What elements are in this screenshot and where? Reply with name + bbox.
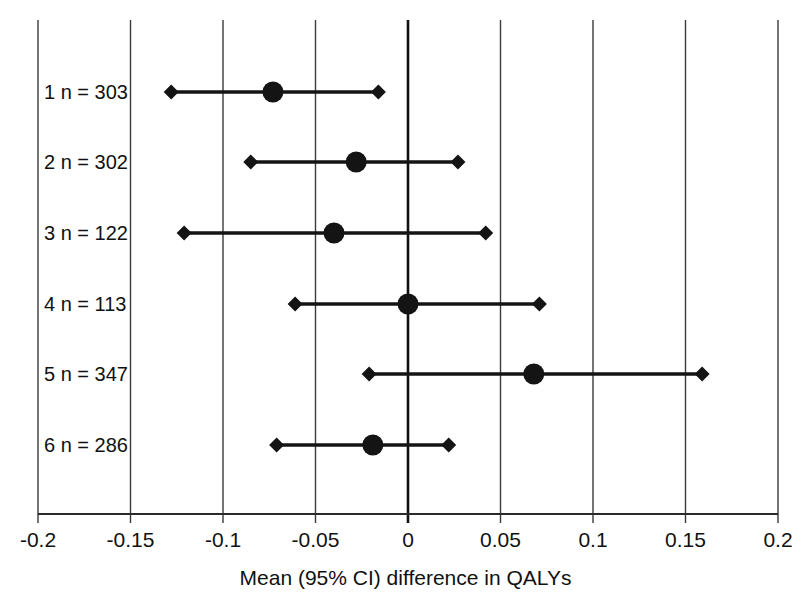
data-row [288,294,547,315]
ci-high-diamond [371,85,386,100]
row-label-study-3: 3 n = 122 [44,222,128,245]
x-tick-label: -0.15 [107,528,155,552]
data-rows-group [164,82,710,456]
x-tick-label: 0.05 [480,528,521,552]
data-row [362,364,710,385]
data-row [243,152,465,173]
row-label-study-5: 5 n = 347 [44,363,128,386]
row-label-study-4: 4 n = 113 [44,293,126,316]
mean-point-marker [523,364,544,385]
x-tick-label: 0 [402,528,414,552]
forest-plot-figure: -0.2-0.15-0.1-0.0500.050.10.150.2 1 n = … [0,0,811,604]
ci-high-diamond [450,155,465,170]
ci-high-diamond [695,367,710,382]
ci-low-diamond [288,297,303,312]
x-tick-label: 0.1 [578,528,607,552]
mean-point-marker [362,435,383,456]
gridlines-group [38,20,778,523]
ci-high-diamond [478,226,493,241]
x-tick-label: -0.1 [205,528,241,552]
ci-low-diamond [164,85,179,100]
ci-low-diamond [362,367,377,382]
row-label-study-2: 2 n = 302 [44,151,128,174]
ci-high-diamond [532,297,547,312]
x-tick-label: -0.2 [20,528,56,552]
data-row [269,435,456,456]
data-row [177,223,494,244]
ci-high-diamond [441,438,456,453]
mean-point-marker [262,82,283,103]
row-label-study-6: 6 n = 286 [44,434,128,457]
ci-low-diamond [243,155,258,170]
mean-point-marker [346,152,367,173]
x-axis-title: Mean (95% CI) difference in QALYs [0,566,811,590]
data-row [164,82,386,103]
x-tick-label: -0.05 [292,528,340,552]
mean-point-marker [398,294,419,315]
ci-low-diamond [269,438,284,453]
x-tick-label: 0.15 [665,528,706,552]
mean-point-marker [324,223,345,244]
row-label-study-1: 1 n = 303 [44,81,128,104]
x-tick-label: 0.2 [763,528,792,552]
ci-low-diamond [177,226,192,241]
